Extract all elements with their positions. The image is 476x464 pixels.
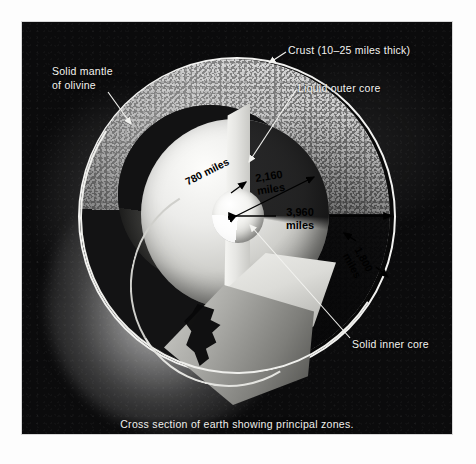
illustration-plate: Cross section of earth showing principal… [22, 22, 452, 434]
earth-cross-section-figure: Cross section of earth showing principal… [0, 0, 476, 464]
earth-globe [78, 57, 392, 372]
figure-caption: Cross section of earth showing principal… [22, 418, 452, 430]
